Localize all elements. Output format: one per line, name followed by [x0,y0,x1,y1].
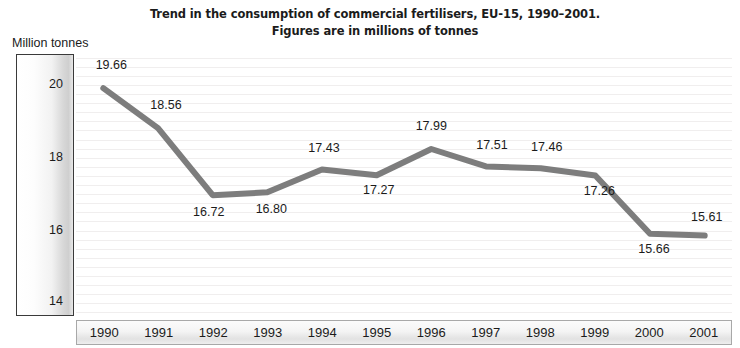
x-tick-label-1990: 1990 [77,321,132,344]
point-label-1991: 18.56 [150,98,181,112]
x-axis-strip: 1990199119921993199419951996199719981999… [76,320,732,345]
y-tick-label-18: 18 [49,150,63,164]
point-label-1998: 17.46 [531,140,562,154]
point-label-1995: 17.27 [363,183,394,197]
x-tick-label-1995: 1995 [350,321,405,344]
series-line [76,54,732,316]
y-tick-label-14: 14 [49,294,63,308]
y-tick-label-20: 20 [49,77,63,91]
x-tick-label-1997: 1997 [459,321,514,344]
x-tick-label-1992: 1992 [186,321,241,344]
x-tick-label-1991: 1991 [132,321,187,344]
x-tick-label-2000: 2000 [622,321,677,344]
point-label-2000: 15.66 [638,242,669,256]
chart-title-line-2: Figures are in millions of tonnes [130,23,620,40]
x-tick-label-1999: 1999 [568,321,623,344]
x-tick-label-1996: 1996 [404,321,459,344]
y-axis-box: 20 18 16 14 [16,54,74,316]
point-label-1993: 16.80 [256,202,287,216]
x-tick-label-1994: 1994 [295,321,350,344]
x-tick-label-1993: 1993 [241,321,296,344]
point-label-1996: 17.99 [416,119,447,133]
point-label-1990: 19.66 [96,58,127,72]
point-label-1999: 17.26 [584,184,615,198]
point-label-2001: 15.61 [691,210,722,224]
y-tick-label-16: 16 [49,223,63,237]
y-axis-caption: Million tonnes [12,36,88,50]
chart-title-line-1: Trend in the consumption of commercial f… [130,6,620,23]
x-tick-label-2001: 2001 [677,321,732,344]
point-label-1992: 16.72 [193,205,224,219]
x-tick-label-1998: 1998 [513,321,568,344]
chart-page: Trend in the consumption of commercial f… [0,0,740,348]
point-label-1997: 17.51 [476,138,507,152]
point-label-1994: 17.43 [308,141,339,155]
chart-title: Trend in the consumption of commercial f… [130,6,620,40]
plot-area: 19.6618.5616.7216.8017.4317.2717.9917.51… [76,54,732,316]
